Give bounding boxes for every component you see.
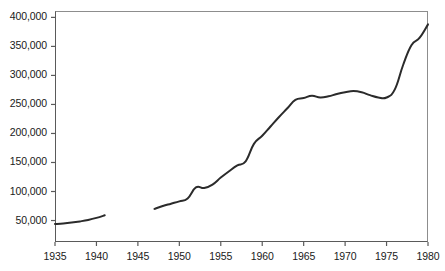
x-tick-label: 1980 — [403, 250, 445, 262]
data-line-group — [55, 24, 428, 224]
y-tick-label: 250,000 — [0, 97, 47, 109]
y-tick-label: 200,000 — [0, 126, 47, 138]
y-tick-label: 400,000 — [0, 10, 47, 22]
chart-svg-layer — [0, 0, 445, 271]
y-tick-label: 300,000 — [0, 68, 47, 80]
data-line-segment-postwar — [154, 24, 428, 209]
y-tick-label: 50,000 — [0, 214, 47, 226]
data-line-segment-prewar — [55, 215, 105, 224]
y-tick-label: 150,000 — [0, 155, 47, 167]
x-axis-tick-marks — [55, 242, 428, 246]
line-chart: 50,000100,000150,000200,000250,000300,00… — [0, 0, 445, 271]
y-tick-label: 100,000 — [0, 185, 47, 197]
y-axis-tick-marks — [51, 17, 55, 220]
y-tick-label: 350,000 — [0, 39, 47, 51]
